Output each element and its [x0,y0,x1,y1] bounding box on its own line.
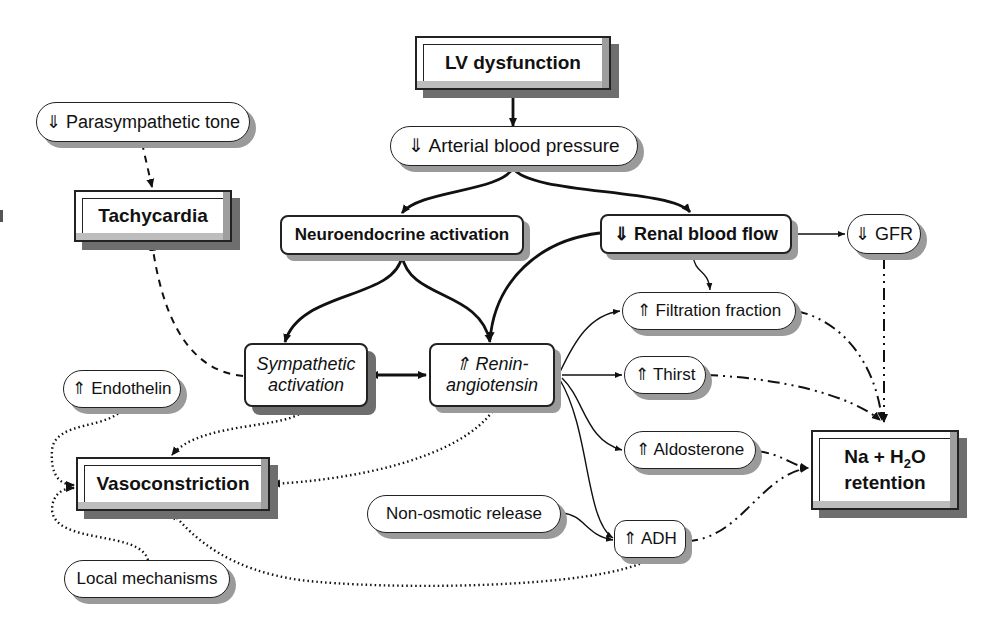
node-parasympathetic-tone: ⇓ Parasympathetic tone [36,102,250,142]
node-local-mechanisms: Local mechanisms [64,560,230,598]
edge-adh-to-na [686,468,808,541]
edge-aldo-to-na [757,451,808,468]
edge-abp-to-neuro [402,168,513,213]
node-aldosterone: ⇑ Aldosterone [624,431,756,469]
node-vasoconstriction: Vasoconstriction [76,457,270,511]
node-renal-blood-flow: ⇓ Renal blood flow [600,214,792,254]
edge-thirst-to-na [706,375,880,420]
node-tachycardia: Tachycardia [74,190,232,242]
node-renin-angiotensin: ⇑ Renin- angiotensin [429,343,555,407]
edge-ff-to-na [796,311,882,420]
edge-neuro-to-renin [402,256,490,342]
edge-para-to-tachy [142,143,152,187]
edge-abp-to-renal [513,168,690,212]
edge-renal-to-ff [693,255,710,290]
edge-symp-to-vaso [172,408,305,455]
node-arterial-blood-pressure: ⇓ Arterial blood pressure [390,126,638,166]
edge-nonosm-to-adh [562,513,613,540]
node-non-osmotic-release: Non-osmotic release [367,495,561,533]
edge-symp-to-tachy [152,243,243,376]
node-sympathetic-activation: Sympathetic activation [244,343,368,407]
scan-mark [0,210,3,222]
edge-neuro-to-symp [285,256,402,342]
node-thirst: ⇑ Thirst [624,356,706,394]
node-gfr: ⇓ GFR [847,214,921,254]
edges-layer [0,0,1003,640]
node-neuroendocrine-activation: Neuroendocrine activation [280,215,524,255]
node-endothelin: ⇑ Endothelin [63,370,181,408]
edge-renin-to-ff [560,311,620,372]
node-lv-dysfunction: LV dysfunction [415,36,611,90]
node-na-h2o-retention: Na + H2O retention [811,430,959,510]
node-adh: ⇑ ADH [614,520,686,558]
edge-renin-to-vaso [272,408,495,484]
node-filtration-fraction: ⇑ Filtration fraction [622,292,796,330]
edge-renin-to-aldo [562,378,622,450]
